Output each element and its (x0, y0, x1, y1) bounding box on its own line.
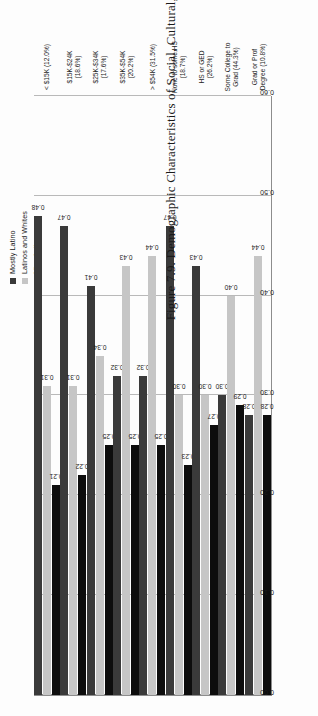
figure-caption: Figure 7.9. Demographic Characteristics … (34, 4, 308, 30)
figure-caption-text: Figure 7.9. Demographic Characteristics … (163, 0, 179, 320)
category-label: Some College toGrad (44.3%) (224, 40, 240, 94)
bar (139, 376, 147, 695)
legend-item: Mostly Latino (8, 211, 17, 284)
bar-row: 0.31 (43, 96, 51, 695)
bar-row: 0.25 (131, 96, 139, 695)
bar-row: 0.47 (60, 96, 68, 695)
category-label: HS or GED (26.2%) (198, 40, 214, 94)
legend-item: Latinos and Whites (20, 211, 29, 284)
category-label-line: Degree (10.8%) (259, 40, 267, 94)
category-label-line: (18.7%) (179, 40, 187, 94)
bar (184, 465, 192, 695)
bar (69, 386, 77, 695)
bar (218, 396, 226, 696)
bar (192, 266, 200, 695)
category-axis-labels: < $15K (12.0%)$15K-$24K (18.6%)$25K-$34K… (34, 40, 272, 96)
bar (96, 356, 104, 695)
bar (148, 256, 156, 695)
bar (60, 226, 68, 695)
x-axis-tick-label: 0.40 (260, 289, 274, 296)
bar (263, 415, 271, 695)
bar (254, 256, 262, 695)
bar-row: 0.41 (87, 96, 95, 695)
bar (245, 415, 253, 695)
rotated-page: Mostly LatinoLatinos and WhitesMix of al… (0, 0, 318, 716)
x-axis-tick-label: 0.00 (260, 689, 274, 696)
bar (113, 376, 121, 695)
plot-inner: 0.480.310.210.470.310.220.410.340.250.32… (34, 96, 271, 695)
figure-container: Mostly LatinoLatinos and WhitesMix of al… (0, 0, 318, 716)
bar (210, 425, 218, 695)
bar (227, 296, 235, 695)
category-label-line: $15K-$24K (18.6%) (66, 40, 82, 94)
category-label-line: > $54K (31.5%) (149, 40, 157, 94)
bar-group: 0.410.340.25 (87, 96, 113, 695)
bar-value-label: 0.28 (260, 403, 273, 410)
bar (157, 445, 165, 695)
bar-group: 0.320.430.25 (113, 96, 139, 695)
bar-row: 0.29 (236, 96, 244, 695)
bar-group: 0.470.310.22 (60, 96, 86, 695)
legend-item-label: Mostly Latino (8, 230, 17, 274)
category-label: Grad or ProfDegree (10.8%) (251, 40, 267, 94)
category-label: $25K-$34K (17.6%) (92, 40, 108, 94)
bar (52, 485, 60, 695)
bar (201, 396, 209, 696)
bar-row: 0.25 (105, 96, 113, 695)
category-label-line: $35K-$54K (20.2%) (119, 40, 135, 94)
bar-row: 0.30 (218, 96, 226, 695)
plot-area: 0.480.310.210.470.310.220.410.340.250.32… (34, 96, 272, 696)
bar (105, 445, 113, 695)
bar-row: 0.34 (96, 96, 104, 695)
x-axis-tick-label: 0.20 (260, 489, 274, 496)
category-label-line: $25K-$34K (17.6%) (92, 40, 108, 94)
category-label-line: Grad or Prof (251, 40, 259, 94)
category-label-line: Some College to (224, 40, 232, 94)
bar-row: 0.31 (69, 96, 77, 695)
square-swatch-icon (10, 278, 16, 284)
bar (175, 396, 183, 696)
bar-group: 0.430.300.27 (192, 96, 218, 695)
bar (78, 475, 86, 695)
category-label: $15K-$24K (18.6%) (66, 40, 82, 94)
bar-row: 0.43 (192, 96, 200, 695)
bar-row: 0.22 (78, 96, 86, 695)
bar-row: 0.32 (113, 96, 121, 695)
bar (122, 266, 130, 695)
bar-row: 0.23 (184, 96, 192, 695)
bar (43, 386, 51, 695)
bar (131, 445, 139, 695)
bar (236, 405, 244, 695)
bar-row: 0.43 (122, 96, 130, 695)
bar-row: 0.30 (201, 96, 209, 695)
bar-row: 0.27 (210, 96, 218, 695)
bar-row: 0.48 (34, 96, 42, 695)
category-label-line: HS or GED (26.2%) (198, 40, 214, 94)
legend-item-label: Latinos and Whites (20, 211, 29, 274)
bar (34, 216, 42, 695)
bar-row: 0.44 (148, 96, 156, 695)
x-axis-tick-label: 0.10 (260, 589, 274, 596)
bar-row: 0.21 (52, 96, 60, 695)
bar-row: 0.28 (245, 96, 253, 695)
x-axis-tick-label: 0.30 (260, 389, 274, 396)
category-label-line: Grad (44.3%) (232, 40, 240, 94)
category-label: < $15K (12.0%) (43, 40, 51, 94)
bar-group: 0.320.440.25 (139, 96, 165, 695)
category-label: > $54K (31.5%) (149, 40, 157, 94)
bar-group: 0.480.310.21 (34, 96, 60, 695)
x-axis-tick-label: 0.50 (260, 189, 274, 196)
x-axis-ticks: 0.000.100.200.300.400.500.60 (274, 96, 310, 696)
bar-group: 0.300.400.29 (218, 96, 244, 695)
bar-row: 0.32 (139, 96, 147, 695)
category-label-line: < $15K (12.0%) (43, 40, 51, 94)
category-label: $35K-$54K (20.2%) (119, 40, 135, 94)
square-swatch-icon (22, 278, 28, 284)
